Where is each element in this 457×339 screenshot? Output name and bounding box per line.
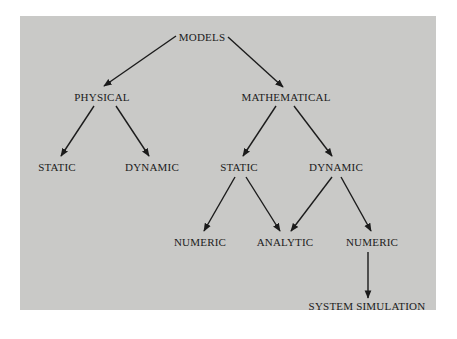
edge-dynamic-analytic: [291, 177, 332, 231]
edge-static-analytic: [246, 177, 280, 231]
edge-static-numeric: [204, 177, 235, 231]
node-models: MODELS: [179, 31, 225, 43]
node-numeric-static: NUMERIC: [174, 236, 226, 248]
edge-models-mathematical: [228, 37, 283, 87]
node-mathematical-static: STATIC: [220, 161, 258, 173]
node-system-simulation: SYSTEM SIMULATION: [309, 300, 426, 312]
node-analytic: ANALYTIC: [257, 236, 314, 248]
edge-mathematical-static: [243, 106, 276, 156]
node-numeric-dynamic: NUMERIC: [346, 236, 398, 248]
edge-dynamic-numeric: [341, 177, 371, 231]
edge-mathematical-dynamic: [294, 106, 332, 156]
edge-physical-dynamic: [116, 106, 149, 156]
node-physical-dynamic: DYNAMIC: [125, 161, 179, 173]
edge-models-physical: [104, 36, 176, 86]
node-mathematical: MATHEMATICAL: [241, 91, 330, 103]
node-physical-static: STATIC: [38, 161, 76, 173]
edge-physical-static: [61, 106, 94, 156]
node-physical: PHYSICAL: [74, 91, 129, 103]
node-mathematical-dynamic: DYNAMIC: [309, 161, 363, 173]
